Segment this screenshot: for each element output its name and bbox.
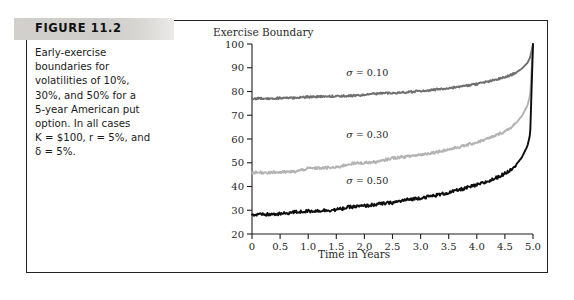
x-tick-label: 4.5 — [497, 241, 513, 252]
figure-caption: Early-exercise boundaries for volatiliti… — [35, 46, 185, 160]
caption-line-delta: δ = 5%. — [35, 145, 185, 159]
x-tick-label: 3.5 — [441, 241, 457, 252]
x-tick-label: 0.5 — [272, 241, 288, 252]
series-line — [252, 44, 533, 100]
series-line — [252, 44, 533, 174]
caption-line-strike: K = $100, r = 5%, and — [35, 131, 185, 145]
x-tick-label: 4.0 — [469, 241, 485, 252]
series-label: σ = 0.30 — [346, 129, 388, 140]
series-line — [252, 44, 533, 216]
y-tick-label: 40 — [231, 181, 244, 192]
caption-line: boundaries for — [35, 60, 185, 74]
caption-line: 30%, and 50% for a — [35, 89, 185, 103]
figure-number-label: FIGURE 11.2 — [35, 21, 122, 35]
x-tick-label: 2.0 — [356, 241, 372, 252]
curve-2 — [252, 44, 533, 174]
series-label: σ = 0.10 — [346, 67, 388, 78]
x-tick-label: 3.0 — [413, 241, 429, 252]
y-tick-label: 70 — [231, 110, 244, 121]
x-tick-label: 1.5 — [328, 241, 344, 252]
x-tick-label: 0 — [249, 241, 255, 252]
caption-line: Early-exercise — [35, 46, 185, 60]
x-tick-label: 5.0 — [525, 241, 541, 252]
y-tick-label: 60 — [231, 134, 244, 145]
curve-3 — [252, 44, 533, 216]
caption-line: 5-year American put — [35, 103, 185, 117]
series-label: σ = 0.50 — [346, 175, 388, 186]
y-tick-label: 20 — [231, 229, 244, 240]
y-tick-label: 50 — [231, 157, 244, 168]
y-tick-label: 90 — [231, 62, 244, 73]
chart-region: Exercise Boundary Time in Years 20304050… — [210, 26, 550, 266]
y-tick-label: 30 — [231, 205, 244, 216]
x-tick-label: 1.0 — [300, 241, 316, 252]
curve-1 — [252, 44, 533, 100]
y-tick-label: 80 — [231, 86, 244, 97]
caption-line: volatilities of 10%, — [35, 74, 185, 88]
caption-line: option. In all cases — [35, 117, 185, 131]
y-tick-label: 100 — [225, 39, 244, 50]
plot-svg: 203040506070809010000.51.01.52.02.53.03.… — [210, 38, 550, 260]
y-axis-title: Exercise Boundary — [213, 26, 314, 38]
x-tick-label: 2.5 — [385, 241, 401, 252]
